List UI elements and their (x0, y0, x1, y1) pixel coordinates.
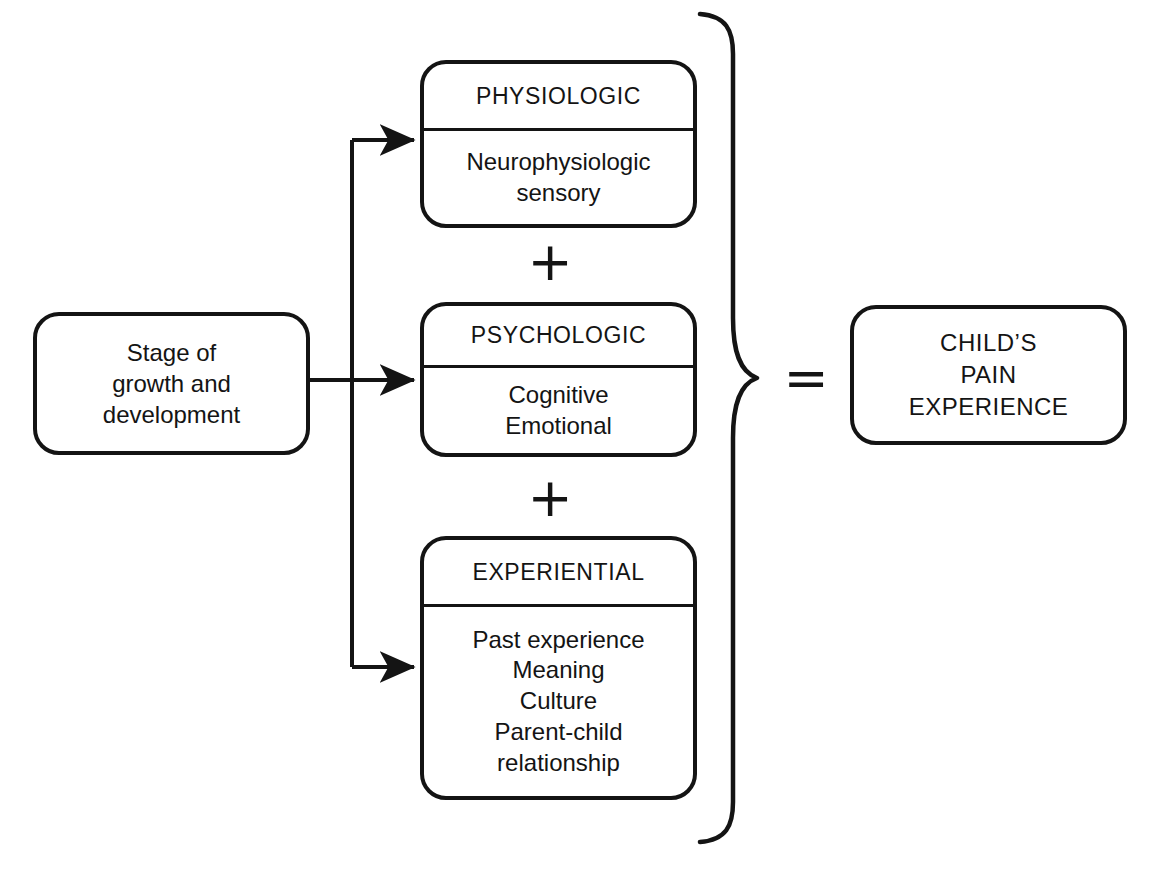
node-experiential-body: Past experience Meaning Culture Parent-c… (424, 607, 693, 796)
node-result-label: CHILD’S PAIN EXPERIENCE (909, 327, 1069, 422)
plus-operator-first: + (527, 239, 573, 285)
diagram-canvas: Stage of growth and development PHYSIOLO… (0, 0, 1152, 875)
node-childs-pain-experience: CHILD’S PAIN EXPERIENCE (850, 305, 1127, 445)
node-psychologic-body: Cognitive Emotional (424, 368, 693, 453)
node-psychologic-header: PSYCHOLOGIC (424, 306, 693, 368)
equals-operator: = (778, 350, 834, 406)
node-psychologic: PSYCHOLOGIC Cognitive Emotional (420, 302, 697, 457)
node-physiologic-body: Neurophysiologic sensory (424, 131, 693, 224)
node-stage-label: Stage of growth and development (103, 337, 240, 431)
node-physiologic-header: PHYSIOLOGIC (424, 64, 693, 131)
node-physiologic: PHYSIOLOGIC Neurophysiologic sensory (420, 60, 697, 228)
curly-brace-icon (700, 14, 757, 842)
node-stage-of-growth-and-development: Stage of growth and development (33, 312, 310, 455)
plus-operator-second: + (527, 475, 573, 521)
node-experiential-header: EXPERIENTIAL (424, 540, 693, 607)
node-experiential: EXPERIENTIAL Past experience Meaning Cul… (420, 536, 697, 800)
